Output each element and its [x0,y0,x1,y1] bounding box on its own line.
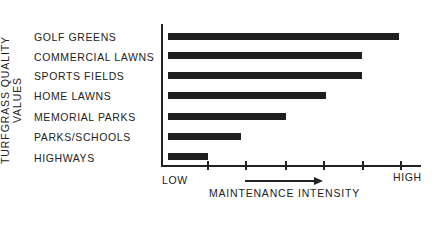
category-label-golf-greens: GOLF GREENS [34,31,116,43]
bar-home-lawns [168,92,326,99]
bar-parks-schools [168,133,241,140]
category-label-sports-fields: SPORTS FIELDS [34,70,124,82]
x-tick-label-high: HIGH [393,171,422,183]
x-tick [245,161,247,170]
x-axis-label: MAINTENANCE INTENSITY [209,187,360,199]
x-tick [285,161,287,170]
y-axis-label: TURFGRASS QUALITY VALUES [0,35,23,165]
x-tick [400,161,402,170]
x-tick [362,161,364,170]
category-label-home-lawns: HOME LAWNS [34,90,111,102]
arrow-icon [245,180,317,182]
category-label-highways: HIGHWAYS [34,152,95,164]
x-tick [323,161,325,170]
arrowhead-icon [314,177,323,185]
x-axis-line [161,165,421,167]
category-label-memorial-parks: MEMORIAL PARKS [34,111,136,123]
bar-commercial-lawns [168,52,362,59]
bar-golf-greens [168,33,399,40]
x-tick-label-low: LOW [162,174,188,186]
x-tick [207,161,209,170]
bar-highways [168,153,208,160]
category-label-parks-schools: PARKS/SCHOOLS [34,131,131,143]
category-label-commercial-lawns: COMMERCIAL LAWNS [34,51,154,63]
bar-memorial-parks [168,113,286,120]
bar-sports-fields [168,72,362,79]
y-axis-line [161,24,163,167]
